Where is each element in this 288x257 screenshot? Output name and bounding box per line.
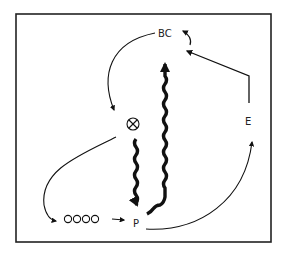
arrow-bc-to-cross xyxy=(108,33,155,110)
wavy-arrow-p-to-bc xyxy=(147,64,167,214)
arrow-bc-curl xyxy=(183,31,191,45)
arrow-p-to-e xyxy=(146,142,252,229)
label-bc: BC xyxy=(158,28,172,39)
label-p: P xyxy=(133,218,139,229)
circles-node xyxy=(64,215,98,222)
arrow-e-to-bc xyxy=(187,51,249,103)
label-e: E xyxy=(245,116,251,127)
arrow-circles-to-p xyxy=(112,219,124,220)
cross-circle-icon xyxy=(127,118,139,130)
arrow-cross-to-circles xyxy=(44,137,116,221)
diagram-frame xyxy=(16,14,271,242)
diagram-canvas: BC E P xyxy=(0,0,288,257)
wavy-arrow-cross-to-p xyxy=(135,139,138,205)
